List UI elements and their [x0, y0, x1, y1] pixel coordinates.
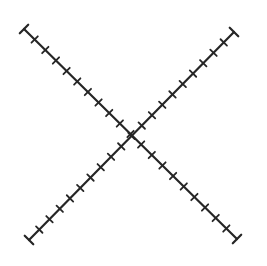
crossed-tick-lines-diagram — [0, 0, 267, 266]
